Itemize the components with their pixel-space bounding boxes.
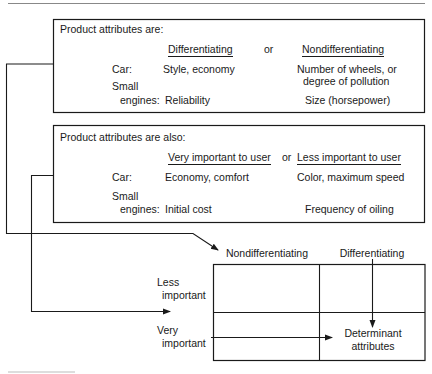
matrix-determinant-label-1: Determinant [344, 327, 401, 339]
box1-header-nondifferentiating: Nondifferentiating [302, 43, 384, 57]
box1-row-car-label: Car: [112, 63, 132, 75]
box2-row-engines-right: Frequency of oiling [305, 203, 394, 215]
box1-row-car-right-1: Number of wheels, or [297, 63, 397, 75]
box2-title: Product attributes are also: [60, 131, 185, 143]
box1-header-differentiating: Differentiating [168, 43, 233, 57]
box2-header-very-important: Very important to user [168, 151, 271, 165]
box1-row-car-right-2: degree of pollution [303, 75, 389, 87]
box1-row-engines-label-1: Small [112, 80, 138, 92]
connector-box2-to-rows [32, 176, 171, 312]
box2-row-engines-left: Initial cost [165, 203, 212, 215]
box2-row-engines-label-1: Small [112, 190, 138, 202]
matrix-col-header-nondifferentiating: Nondifferentiating [226, 247, 308, 259]
box1-row-engines-right: Size (horsepower) [305, 94, 390, 106]
box1-title: Product attributes are: [60, 23, 163, 35]
matrix-row-header-very-2: important [162, 337, 206, 349]
matrix-col-header-differentiating: Differentiating [340, 247, 405, 259]
box2-or: or [282, 151, 291, 163]
box2-row-car-left: Economy, comfort [165, 171, 249, 183]
box2-row-engines-label-2: engines: [120, 203, 160, 215]
box2-row-car-label: Car: [112, 171, 132, 183]
box1-row-car-left: Style, economy [163, 63, 235, 75]
matrix-determinant-label-2: attributes [351, 340, 394, 352]
box1-row-engines-left: Reliability [165, 94, 210, 106]
matrix-row-header-less-1: Less [157, 276, 179, 288]
box2-header-less-important: Less important to user [297, 151, 401, 165]
matrix-row-header-very-1: Very [157, 324, 178, 336]
box1-or: or [264, 43, 273, 55]
box2-row-car-right: Color, maximum speed [297, 171, 404, 183]
matrix-row-header-less-2: important [162, 289, 206, 301]
box1-row-engines-label-2: engines: [120, 94, 160, 106]
